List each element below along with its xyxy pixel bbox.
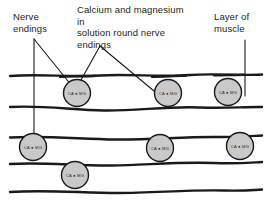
membrane-line-3	[10, 136, 262, 140]
ion-6-label: CA ● MG	[231, 144, 249, 149]
membrane-overlay-3	[214, 75, 244, 76]
ion-circles: CA ● MG CA ● MG CA ● MG CA ● MG CA ● MG …	[20, 79, 254, 189]
ion-7: CA ● MG	[62, 162, 89, 189]
label-calcium-magnesium: Calcium and magnesium in solution round …	[77, 4, 189, 50]
membrane-line-2	[10, 107, 262, 111]
ion-3-label: CA ● MG	[219, 90, 237, 95]
ion-2-label: CA ● MG	[159, 91, 177, 96]
ion-1-label: CA ● MG	[68, 91, 86, 96]
ion-5: CA ● MG	[147, 135, 174, 162]
membrane-overlay-1	[60, 76, 95, 77]
label-layer-of-muscle: Layer of muscle	[214, 11, 270, 34]
ion-2: CA ● MG	[155, 80, 182, 107]
ion-3: CA ● MG	[215, 79, 242, 106]
membrane-overlay-2	[152, 76, 186, 77]
diagram-canvas: CA ● MG CA ● MG CA ● MG CA ● MG CA ● MG …	[0, 0, 271, 210]
ion-4: CA ● MG	[20, 134, 47, 161]
ion-5-label: CA ● MG	[151, 146, 169, 151]
membrane-line-5	[10, 190, 262, 194]
ion-6: CA ● MG	[227, 133, 254, 160]
leader-calcium-v-right	[100, 46, 160, 96]
label-nerve-endings: Nerve endings	[13, 11, 75, 34]
membrane-line-4	[10, 162, 262, 166]
ion-4-label: CA ● MG	[24, 145, 42, 150]
ion-7-label: CA ● MG	[66, 173, 84, 178]
ion-1: CA ● MG	[64, 80, 91, 107]
